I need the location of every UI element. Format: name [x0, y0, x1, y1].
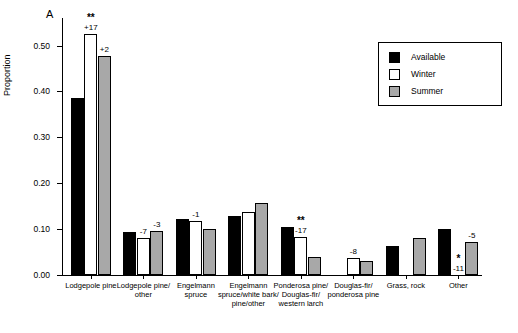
bar-annotation: -3: [153, 220, 160, 229]
bar-summer: [203, 229, 216, 275]
y-tick-label: 0.40: [33, 86, 50, 96]
y-tick-label: 0.00: [33, 270, 50, 280]
y-tick: 0.10: [57, 229, 62, 230]
legend-swatch-available: [389, 52, 400, 63]
x-tick: [406, 275, 407, 279]
bar-available: [228, 216, 241, 275]
y-tick: 0.20: [57, 183, 62, 184]
y-tick: 0.50: [57, 46, 62, 47]
legend-label-summer: Summer: [411, 86, 443, 97]
bar-available: [123, 232, 136, 275]
y-tick-label: 0.50: [33, 41, 50, 51]
bar-annotation: +17: [84, 23, 98, 32]
bar-annotation: -17: [295, 226, 307, 235]
x-tick: [301, 275, 302, 279]
x-axis-category-label: Other: [415, 281, 501, 290]
y-tick-label: 0.10: [33, 224, 50, 234]
bar-summer: [413, 238, 426, 275]
bar-available: [176, 219, 189, 275]
x-tick: [458, 275, 459, 279]
bar-annotation: -5: [468, 231, 475, 240]
bar-summer: [308, 257, 321, 275]
y-tick: 0.30: [57, 137, 62, 138]
x-tick: [248, 275, 249, 279]
significance-marker: *: [456, 253, 460, 264]
y-axis-label: Proportion: [2, 80, 12, 96]
bar-available: [281, 227, 294, 275]
significance-marker: **: [87, 12, 95, 23]
bar-annotation: -1: [192, 210, 199, 219]
bar-summer: [465, 242, 478, 275]
bar-available: [386, 246, 399, 275]
legend: Available Winter Summer: [378, 42, 502, 106]
bar-winter: [347, 258, 360, 275]
significance-marker: **: [297, 215, 305, 226]
bar-annotation: -7: [140, 227, 147, 236]
bar-winter: [242, 212, 255, 275]
bar-annotation: -8: [350, 247, 357, 256]
legend-label-winter: Winter: [411, 69, 436, 80]
bar-summer: [150, 231, 163, 275]
y-tick-label: 0.30: [33, 132, 50, 142]
bar-summer: [255, 203, 268, 276]
bar-available: [71, 98, 84, 275]
y-tick: 0.00: [57, 275, 62, 276]
chart-figure: A Proportion 0.000.100.200.300.400.50 +1…: [0, 0, 518, 333]
bar-annotation: -11: [453, 264, 464, 273]
bar-annotation: +2: [100, 45, 109, 54]
bar-summer: [98, 56, 111, 275]
y-tick: 0.40: [57, 91, 62, 92]
legend-label-available: Available: [411, 52, 445, 63]
x-tick: [353, 275, 354, 279]
y-tick-label: 0.20: [33, 178, 50, 188]
bar-winter: [137, 238, 150, 275]
legend-swatch-summer: [389, 86, 400, 97]
panel-label: A: [46, 8, 53, 20]
x-tick: [143, 275, 144, 279]
bar-winter: [294, 237, 307, 275]
x-tick: [196, 275, 197, 279]
bar-winter: [84, 34, 97, 275]
x-axis-line: [62, 275, 482, 276]
bar-winter: [189, 221, 202, 275]
x-tick: [91, 275, 92, 279]
legend-swatch-winter: [389, 69, 400, 80]
y-axis-line: [62, 18, 63, 275]
bar-summer: [360, 261, 373, 275]
bar-available: [438, 229, 451, 275]
